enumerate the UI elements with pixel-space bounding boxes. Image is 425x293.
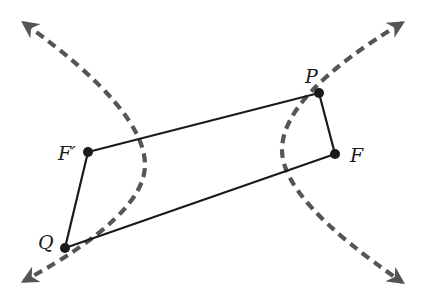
label-fprime: F′ bbox=[57, 142, 76, 164]
label-p: P bbox=[304, 65, 319, 87]
point-p bbox=[314, 88, 324, 98]
label-f: F bbox=[349, 144, 364, 166]
label-q: Q bbox=[38, 231, 54, 253]
right-branch-curve bbox=[282, 23, 402, 282]
segment-p-f bbox=[319, 93, 335, 154]
point-q bbox=[60, 243, 70, 253]
point-fprime bbox=[83, 147, 93, 157]
point-f bbox=[330, 149, 340, 159]
segment-f-q bbox=[65, 154, 335, 248]
segment-q-fprime bbox=[65, 152, 88, 248]
hyperbola-diagram: F′ P F Q bbox=[0, 0, 425, 293]
